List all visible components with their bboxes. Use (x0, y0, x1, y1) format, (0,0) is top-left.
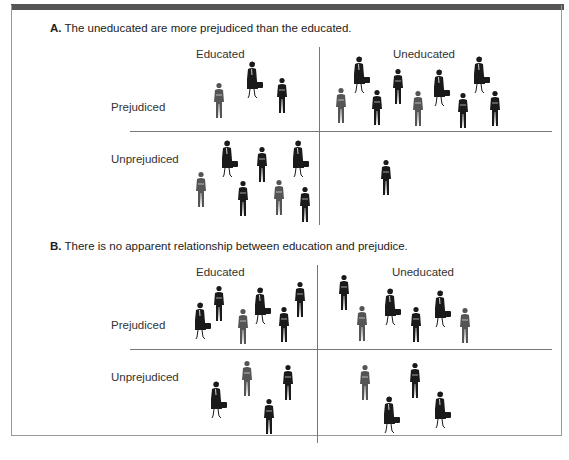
woman-with-briefcase-icon (383, 288, 403, 328)
man-figure-icon (456, 92, 470, 130)
man-figure-icon (408, 362, 422, 400)
man-figure-icon (277, 306, 291, 344)
man-figure-icon (275, 77, 289, 115)
man-figure-icon (236, 308, 250, 346)
man-figure-icon (334, 87, 348, 125)
man-figure-icon (212, 285, 226, 323)
panel-b-col-uneducated: Uneducated (392, 266, 454, 278)
panel-b-horizontal-divider (130, 349, 552, 350)
woman-with-briefcase-icon (433, 391, 453, 431)
panel-a-col-educated: Educated (196, 48, 245, 60)
man-figure-icon (240, 360, 254, 398)
woman-with-briefcase-icon (433, 290, 453, 330)
panel-a-heading: A. The uneducated are more prejudiced th… (50, 22, 352, 34)
man-figure-icon (255, 146, 269, 184)
man-figure-icon (391, 68, 405, 106)
panel-b-col-educated: Educated (196, 266, 245, 278)
man-figure-icon (488, 90, 502, 128)
woman-with-briefcase-icon (245, 61, 265, 101)
man-figure-icon (298, 186, 312, 224)
man-figure-icon (409, 306, 423, 344)
panel-b-vertical-divider (317, 265, 318, 443)
panel-a-horizontal-divider (130, 131, 552, 132)
panel-b-caption: There is no apparent relationship betwee… (65, 240, 408, 252)
man-figure-icon (236, 180, 250, 218)
panel-a-vertical-divider (319, 47, 320, 225)
man-figure-icon (355, 305, 369, 343)
man-figure-icon (212, 82, 226, 120)
panel-b-row-prejudiced: Prejudiced (111, 319, 165, 331)
panel-b-letter: B. (50, 240, 62, 252)
man-figure-icon (281, 364, 295, 402)
panel-a-caption: The uneducated are more prejudiced than … (65, 22, 352, 34)
panel-a-row-unprejudiced: Unprejudiced (111, 153, 179, 165)
man-figure-icon (458, 307, 472, 345)
man-figure-icon (262, 398, 276, 436)
woman-with-briefcase-icon (209, 381, 229, 421)
woman-with-briefcase-icon (352, 56, 372, 96)
man-figure-icon (379, 159, 393, 197)
woman-with-briefcase-icon (291, 140, 311, 180)
panel-b-row-unprejudiced: Unprejudiced (111, 371, 179, 383)
man-figure-icon (411, 90, 425, 128)
woman-with-briefcase-icon (382, 396, 402, 436)
man-figure-icon (272, 179, 286, 217)
woman-with-briefcase-icon (220, 140, 240, 180)
woman-with-briefcase-icon (193, 302, 213, 342)
man-figure-icon (337, 274, 351, 312)
woman-with-briefcase-icon (253, 287, 273, 327)
panel-a-col-uneducated: Uneducated (393, 48, 455, 60)
man-figure-icon (358, 364, 372, 402)
woman-with-briefcase-icon (432, 69, 452, 109)
panel-a-letter: A. (50, 22, 62, 34)
panel-b-heading: B. There is no apparent relationship bet… (50, 240, 408, 252)
man-figure-icon (370, 89, 384, 127)
panel-a-row-prejudiced: Prejudiced (111, 101, 165, 113)
man-figure-icon (194, 171, 208, 209)
man-figure-icon (293, 281, 307, 319)
